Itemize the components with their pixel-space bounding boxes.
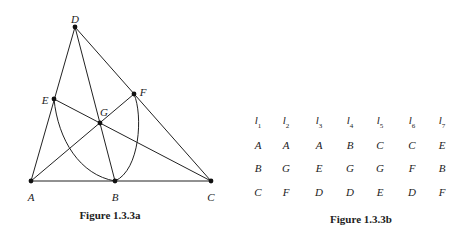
table-cell: F [409, 162, 416, 174]
line-a-f [31, 94, 134, 181]
line-a-d [31, 27, 75, 181]
table-cell: C [376, 139, 383, 151]
point-label-f: F [140, 86, 147, 98]
table-cell: B [347, 139, 354, 151]
point-c [209, 179, 214, 184]
figure-b-caption: Figure 1.3.3b [330, 213, 392, 225]
table-cell: D [346, 186, 354, 198]
table-cell: C [254, 186, 261, 198]
point-label-d: D [71, 13, 79, 25]
point-a [29, 179, 34, 184]
point-label-e: E [42, 94, 49, 106]
table-cell: F [283, 186, 290, 198]
table-cell: G [346, 162, 354, 174]
table-cell: E [316, 162, 323, 174]
table-cell: D [408, 186, 416, 198]
point-d [73, 25, 78, 30]
point-f [132, 92, 137, 97]
figure-a-caption: Figure 1.3.3a [79, 209, 140, 221]
figure-1-3-3a-diagram [0, 0, 469, 235]
table-cell: A [255, 139, 262, 151]
point-b [113, 179, 118, 184]
table-cell: G [376, 162, 384, 174]
table-cell: B [255, 162, 262, 174]
table-cell: D [315, 186, 323, 198]
table-cell: F [439, 186, 446, 198]
line-e-c [54, 99, 211, 181]
point-e [52, 97, 57, 102]
column-header-l3: l3 [316, 114, 323, 129]
table-cell: G [282, 162, 290, 174]
column-header-l4: l4 [347, 114, 354, 129]
column-header-l6: l6 [409, 114, 416, 129]
table-cell: E [377, 186, 384, 198]
table-cell: A [316, 139, 323, 151]
point-g [98, 121, 103, 126]
table-cell: B [439, 162, 446, 174]
point-label-c: C [207, 191, 214, 203]
point-label-b: B [112, 191, 119, 203]
column-header-l1: l1 [255, 114, 262, 129]
point-label-g: G [100, 106, 108, 118]
column-header-l2: l2 [283, 114, 290, 129]
table-cell: C [408, 139, 415, 151]
column-header-l5: l5 [377, 114, 384, 129]
column-header-l7: l7 [439, 114, 446, 129]
point-label-a: A [28, 191, 35, 203]
table-cell: A [283, 139, 290, 151]
table-cell: E [439, 139, 446, 151]
